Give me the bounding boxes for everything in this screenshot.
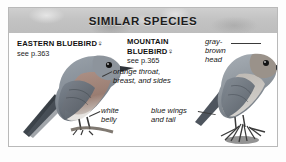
female-symbol-icon: ♀ (97, 39, 103, 48)
annotation-orange-throat: orange throat, breast, and sides (113, 67, 177, 85)
species-caption-mountain-bluebird: MOUNTAIN BLUEBIRD♀ see p.365 (127, 38, 179, 65)
page-reference-eastern-bluebird[interactable]: see p.363 (17, 50, 103, 58)
species-name-text: MOUNTAIN BLUEBIRD (127, 37, 169, 56)
female-symbol-icon: ♀ (167, 47, 173, 56)
species-caption-eastern-bluebird: EASTERN BLUEBIRD♀ see p.363 (17, 39, 103, 58)
species-name-mountain-bluebird: MOUNTAIN BLUEBIRD♀ (127, 38, 179, 56)
species-name-text: EASTERN BLUEBIRD (17, 39, 97, 48)
page-reference-mountain-bluebird[interactable]: see p.365 (127, 57, 179, 65)
annotation-gray-brown-head: gray-brown head (205, 37, 241, 64)
annotation-white-belly: white belly (101, 106, 131, 124)
card-header-band: SIMILAR SPECIES (9, 8, 277, 34)
species-name-eastern-bluebird: EASTERN BLUEBIRD♀ (17, 39, 103, 49)
field-guide-panel: SIMILAR SPECIES (0, 0, 286, 162)
annotation-blue-wings: blue wings and tail (151, 106, 199, 124)
card-body: EASTERN BLUEBIRD♀ see p.363 MOUNTAIN BLU… (9, 34, 277, 146)
similar-species-card: SIMILAR SPECIES (8, 7, 278, 147)
card-title: SIMILAR SPECIES (9, 8, 277, 34)
leader-line-gray-brown-head (231, 43, 261, 44)
